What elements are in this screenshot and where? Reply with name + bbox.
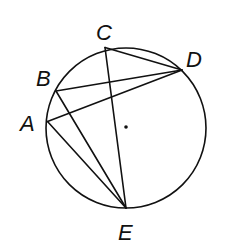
label-b: B — [36, 66, 51, 91]
center-dot — [124, 125, 128, 129]
segment-ce — [105, 48, 126, 209]
segment-be — [56, 91, 126, 208]
segment-bd — [56, 70, 182, 91]
label-c: C — [96, 20, 112, 45]
segment-ae — [48, 122, 127, 209]
label-d: D — [186, 47, 202, 72]
label-e: E — [118, 220, 133, 245]
segment-ad — [48, 70, 183, 122]
segment-cd — [105, 48, 182, 71]
circle-diagram: C D B A E — [0, 0, 225, 248]
chords — [48, 48, 183, 209]
label-a: A — [18, 111, 35, 136]
